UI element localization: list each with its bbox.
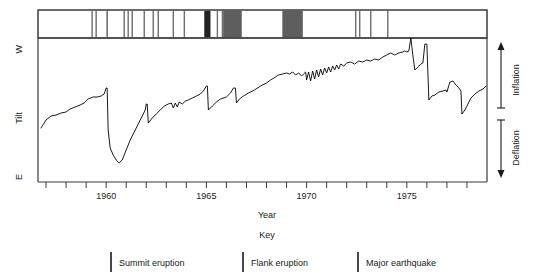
x-axis-title: Year	[258, 210, 276, 220]
event-mark-summit-eruption	[355, 11, 356, 38]
event-mark-summit-eruption	[387, 11, 388, 38]
deflation-label: Deflation	[511, 130, 521, 166]
x-tick-label: 1975	[397, 191, 417, 201]
tilt-chart-figure: 1960196519701975 W Tilt E Inflation Defl…	[0, 0, 535, 280]
event-bar	[38, 10, 487, 38]
event-mark-summit-eruption	[217, 11, 218, 38]
event-mark-summit-eruption	[132, 11, 133, 38]
event-mark-summit-eruption	[184, 11, 185, 38]
event-mark-flank-eruption	[223, 11, 242, 38]
key-title: Key	[259, 230, 275, 240]
event-bar-frame	[38, 10, 487, 38]
event-mark-major-earthquake	[204, 11, 210, 38]
event-mark-summit-eruption	[153, 11, 154, 38]
event-mark-summit-eruption	[158, 11, 159, 38]
event-mark-summit-eruption	[91, 11, 92, 38]
event-mark-summit-eruption	[173, 11, 174, 38]
event-mark-flank-eruption	[106, 11, 107, 38]
key-item-label: Summit eruption	[119, 258, 185, 268]
inflation-label: Inflation	[511, 64, 521, 96]
y-axis-top-label: W	[14, 45, 24, 54]
event-mark-summit-eruption	[222, 11, 223, 38]
event-mark-summit-eruption	[359, 11, 360, 38]
y-axis-title: Tilt	[14, 112, 24, 124]
event-mark-summit-eruption	[144, 11, 145, 38]
y-axis-bottom-label: E	[14, 174, 24, 180]
x-tick-label: 1965	[196, 191, 216, 201]
event-mark-summit-eruption	[128, 11, 129, 38]
key-item-label: Major earthquake	[366, 258, 436, 268]
event-mark-flank-eruption	[282, 11, 302, 38]
event-mark-summit-eruption	[95, 11, 96, 38]
key-item-label: Flank eruption	[251, 258, 308, 268]
chart-svg: 1960196519701975 W Tilt E Inflation Defl…	[0, 0, 535, 280]
event-mark-summit-eruption	[123, 11, 124, 38]
event-mark-summit-eruption	[370, 11, 371, 38]
x-tick-label: 1960	[96, 191, 116, 201]
x-tick-label: 1970	[297, 191, 317, 201]
